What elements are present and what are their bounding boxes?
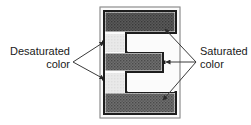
bar-top-arm xyxy=(106,13,175,32)
label-desaturated-color: Desaturated color xyxy=(4,45,70,71)
label-saturated-color: Saturated color xyxy=(200,45,250,71)
leader-desaturated-upper xyxy=(73,42,104,62)
leader-desaturated-lower xyxy=(73,62,104,79)
label-saturated-line2: color xyxy=(200,58,250,71)
bar-bottom-arm xyxy=(106,94,175,113)
label-desaturated-line2: color xyxy=(4,58,70,71)
gap-upper xyxy=(106,34,125,52)
leader-lines-desaturated xyxy=(73,42,104,79)
figure-container: Desaturated color Saturated color xyxy=(0,0,251,125)
label-saturated-line1: Saturated xyxy=(200,45,250,58)
label-desaturated-line1: Desaturated xyxy=(4,45,70,58)
bar-middle-arm xyxy=(106,54,162,71)
gap-lower xyxy=(106,73,125,93)
